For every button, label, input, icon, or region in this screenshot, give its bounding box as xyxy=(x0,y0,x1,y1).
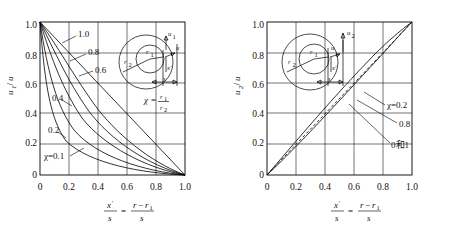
right-inset-r1-sub: 1 xyxy=(315,51,318,58)
right-xaxis-n2a: r xyxy=(360,200,364,210)
right-y-axis-slash: / xyxy=(232,83,242,86)
left-xtick-0: 0 xyxy=(38,182,43,192)
left-y-axis-num: u xyxy=(5,90,15,95)
right-xaxis-n2c: r xyxy=(372,200,376,210)
right-x-axis-title: x ' s = r − r 1 s xyxy=(331,199,381,223)
left-x-tick-labels: 0 0.2 0.4 0.6 0.8 1.0 xyxy=(38,182,192,192)
chi-den: r xyxy=(160,104,163,111)
left-ytick-4: 0.8 xyxy=(25,51,37,61)
left-y-tick-labels: 0 0.2 0.4 0.6 0.8 1.0 xyxy=(25,20,37,180)
chi-num-sub: 1 xyxy=(164,95,167,102)
xaxis-n1: x xyxy=(106,200,111,210)
right-inset-r1-label: r xyxy=(310,48,313,55)
inset-r2-sub: 2 xyxy=(129,61,132,68)
left-ytick-5: 1.0 xyxy=(25,20,37,30)
right-ytick-3: 0.6 xyxy=(252,80,264,90)
curve-label-5: χ=0.1 xyxy=(43,151,64,161)
right-inset-r2-sub: 2 xyxy=(293,61,296,68)
left-xtick-3: 0.6 xyxy=(121,182,133,192)
inset-u1-sub: 1 xyxy=(173,33,176,40)
right-x-tick-labels: 0 0.2 0.4 0.6 0.8 1.0 xyxy=(265,182,419,192)
curve-r-0and1 xyxy=(267,22,412,175)
right-curves xyxy=(267,22,412,175)
left-ytick-1: 0.2 xyxy=(25,138,37,148)
right-inset-r2-line xyxy=(287,59,314,72)
xaxis-n2sub: 1 xyxy=(150,204,153,211)
right-ytick-4: 0.8 xyxy=(252,51,264,61)
chi-num: r xyxy=(160,93,163,100)
left-y-axis-den: u xyxy=(5,76,15,81)
curve-label-4: 0.2 xyxy=(48,125,59,135)
leader-r-0and1 xyxy=(349,104,390,143)
right-xtick-3: 0.6 xyxy=(348,182,360,192)
leader-r-0p2 xyxy=(364,92,385,105)
right-xtick-2: 0.4 xyxy=(319,182,331,192)
right-inset-u-label: u xyxy=(331,44,335,51)
left-ytick-0: 0 xyxy=(32,170,37,180)
right-xtick-0: 0 xyxy=(265,182,270,192)
chi-den-sub: 2 xyxy=(164,106,167,113)
xaxis-prime: ' xyxy=(112,199,113,206)
right-inset-diagram: r 2 r 1 u 2 u x' s xyxy=(282,29,355,90)
left-y-axis-slash: / xyxy=(5,83,15,86)
left-xtick-1: 0.2 xyxy=(63,182,75,192)
right-xaxis-d1: s xyxy=(335,213,339,223)
right-ytick-1: 0.2 xyxy=(252,138,264,148)
right-xaxis-n2b: − xyxy=(365,200,370,210)
left-inset-diagram: r 2 r 1 u 1 u x' s xyxy=(119,30,180,89)
leader-0p8 xyxy=(70,54,86,61)
left-plot-svg: u 1 / u 0 0.2 0.4 0.6 0.8 1.0 xyxy=(0,0,227,227)
inset-r1-sub: 1 xyxy=(151,51,154,58)
panel-right: u 2 / u 0 0.2 0.4 0.6 0.8 1.0 xyxy=(227,0,454,227)
right-curve-label-1: 0.8 xyxy=(399,119,411,129)
left-xtick-4: 0.8 xyxy=(150,182,162,192)
right-inset-r2-label: r xyxy=(288,58,291,65)
xaxis-n2b: − xyxy=(138,200,143,210)
curve-label-3: 0.4 xyxy=(52,93,64,103)
right-xaxis-n2sub: 1 xyxy=(377,204,380,211)
right-xaxis-d2: s xyxy=(367,213,371,223)
left-ytick-2: 0.4 xyxy=(25,109,37,119)
left-y-axis-title: u 1 / u xyxy=(5,76,17,95)
right-plot-svg: u 2 / u 0 0.2 0.4 0.6 0.8 1.0 xyxy=(227,0,454,227)
inset-xprime-label: x' xyxy=(166,64,172,71)
right-inset-u2-label: u xyxy=(347,29,351,36)
left-x-axis-title: x ' s = r − r 1 s xyxy=(104,199,154,223)
panel-left: u 1 / u 0 0.2 0.4 0.6 0.8 1.0 xyxy=(0,0,227,227)
inset-u-arrow xyxy=(165,53,175,57)
xaxis-d1: s xyxy=(108,213,112,223)
right-inset-xprime-label: x' xyxy=(331,64,337,71)
inset-u1-label: u xyxy=(168,30,172,37)
right-xtick-5: 1.0 xyxy=(406,182,418,192)
right-y-axis-num: u xyxy=(232,90,242,95)
right-xtick-1: 0.2 xyxy=(290,182,302,192)
right-xaxis-eq: = xyxy=(348,206,353,216)
left-curve-labels: 1.0 0.8 0.6 0.4 0.2 χ=0.1 xyxy=(43,29,107,161)
chi-symbol: χ xyxy=(143,95,149,105)
left-ytick-3: 0.6 xyxy=(25,80,37,90)
xaxis-n2c: r xyxy=(145,200,149,210)
inset-r1-label: r xyxy=(146,48,149,55)
right-ytick-5: 1.0 xyxy=(252,20,264,30)
xaxis-eq: = xyxy=(121,206,126,216)
inset-u-label: u xyxy=(176,44,180,51)
right-y-tick-labels: 0 0.2 0.4 0.6 0.8 1.0 xyxy=(252,20,264,180)
xaxis-d2: s xyxy=(140,213,144,223)
curve-label-1: 0.8 xyxy=(88,47,100,57)
right-xaxis-prime: ' xyxy=(339,199,340,206)
right-y-axis-title: u 2 / u xyxy=(232,76,244,95)
right-curve-label-2: 0和1 xyxy=(391,140,409,150)
left-xtick-5: 1.0 xyxy=(179,182,191,192)
curve-label-0: 1.0 xyxy=(78,29,90,39)
inset-r2-label: r xyxy=(124,58,127,65)
right-xtick-4: 0.8 xyxy=(377,182,389,192)
right-curve-label-0: χ=0.2 xyxy=(386,100,407,110)
right-ytick-0: 0 xyxy=(259,170,264,180)
left-xtick-2: 0.4 xyxy=(92,182,104,192)
curve-label-2: 0.6 xyxy=(95,65,107,75)
figure-root: u 1 / u 0 0.2 0.4 0.6 0.8 1.0 xyxy=(0,0,454,227)
right-xaxis-n1: x xyxy=(333,200,338,210)
xaxis-n2a: r xyxy=(133,200,137,210)
right-ytick-2: 0.4 xyxy=(252,109,264,119)
right-y-axis-den: u xyxy=(232,76,242,81)
